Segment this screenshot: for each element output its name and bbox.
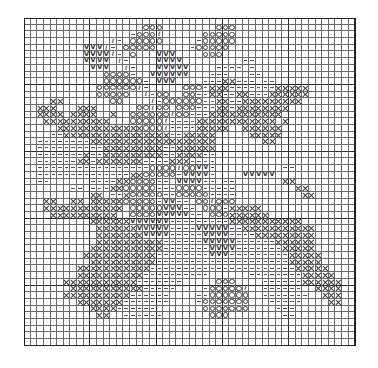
grid-cell: [190, 339, 197, 346]
dash-symbol: [163, 158, 169, 164]
v-stitch-symbol: V: [163, 232, 169, 238]
grid-cell: [256, 245, 263, 252]
circle-symbol: [183, 92, 189, 98]
cross-stitch-symbol: [90, 306, 96, 312]
dash-symbol: [143, 292, 149, 298]
grid-cell: [150, 185, 157, 192]
grid-cell: [150, 286, 157, 293]
grid-cell: [223, 199, 230, 206]
v-stitch-symbol: V: [203, 239, 209, 245]
grid-cell: [70, 306, 77, 313]
grid-cell: [210, 25, 217, 32]
grid-cell: [44, 51, 51, 58]
grid-cell: [263, 125, 270, 132]
grid-cell: [302, 92, 309, 99]
grid-cell: [316, 252, 323, 259]
grid-cell: [216, 38, 223, 45]
grid-cell: [157, 105, 164, 112]
grid-cell: [104, 172, 111, 179]
grid-cell: [243, 85, 250, 92]
grid-cell: [322, 225, 329, 232]
grid-cell: [104, 219, 111, 226]
grid-cell: [143, 319, 150, 326]
grid-cell: [309, 312, 316, 319]
grid-cell: [143, 265, 150, 272]
cross-stitch-symbol: [322, 286, 328, 292]
circle-symbol: [210, 38, 216, 44]
v-stitch-symbol: V: [84, 58, 90, 64]
circle-symbol: [157, 172, 163, 178]
dash-symbol: [170, 152, 176, 158]
cross-stitch-symbol: [97, 272, 103, 278]
grid-cell: [37, 306, 44, 313]
grid-cell: [24, 199, 31, 206]
grid-cell: ℓ: [163, 125, 170, 132]
dash-symbol: [249, 85, 255, 91]
grid-cell: [137, 279, 144, 286]
cross-stitch-symbol: [110, 252, 116, 258]
grid-cell: [249, 312, 256, 319]
cross-stitch-symbol: [256, 118, 262, 124]
dash-symbol: [170, 252, 176, 258]
cross-stitch-symbol: [130, 239, 136, 245]
grid-cell: [329, 172, 336, 179]
dash-symbol: [77, 165, 83, 171]
grid-cell: [143, 65, 150, 72]
grid-cell: [316, 299, 323, 306]
dash-symbol: [190, 212, 196, 218]
grid-cell: [117, 279, 124, 286]
dash-symbol: [163, 239, 169, 245]
circle-symbol: [123, 199, 129, 205]
grid-cell: [282, 112, 289, 119]
grid-cell: [90, 339, 97, 346]
dash-symbol: [70, 152, 76, 158]
dash-symbol: [176, 219, 182, 225]
grid-cell: [223, 98, 230, 105]
dash-symbol: [249, 58, 255, 64]
grid-cell: [316, 58, 323, 65]
circle-symbol: [236, 299, 242, 305]
grid-cell: [329, 165, 336, 172]
cross-stitch-symbol: [243, 225, 249, 231]
dash-symbol: [203, 105, 209, 111]
cross-stitch-symbol: [322, 292, 328, 298]
grid-cell: [256, 158, 263, 165]
grid-cell: [183, 38, 190, 45]
grid-cell: [289, 132, 296, 139]
grid-cell: [190, 245, 197, 252]
grid-cell: [342, 252, 349, 259]
dash-symbol: [77, 145, 83, 151]
grid-cell: [163, 292, 170, 299]
cross-stitch-symbol: [90, 252, 96, 258]
cross-stitch-symbol: [77, 272, 83, 278]
grid-cell: [97, 72, 104, 79]
cross-stitch-symbol: [210, 138, 216, 144]
circle-symbol: [196, 192, 202, 198]
dash-symbol: [143, 299, 149, 305]
dash-symbol: [263, 245, 269, 251]
cross-stitch-symbol: [269, 98, 275, 104]
grid-cell: [335, 125, 342, 132]
grid-cell: [97, 105, 104, 112]
grid-cell: [150, 312, 157, 319]
grid-cell: [57, 312, 64, 319]
grid-cell: [229, 306, 236, 313]
dash-symbol: [216, 72, 222, 78]
grid-cell: [130, 65, 137, 72]
grid-cell: [163, 319, 170, 326]
grid-cell: [170, 245, 177, 252]
grid-cell: [51, 185, 58, 192]
grid-cell: [31, 239, 38, 246]
grid-cell: [276, 205, 283, 212]
cross-stitch-symbol: [123, 158, 129, 164]
grid-cell: [342, 112, 349, 119]
grid-cell: [150, 118, 157, 125]
grid-cell: [190, 232, 197, 239]
grid-cell: [104, 179, 111, 186]
grid-cell: [104, 265, 111, 272]
grid-cell: [322, 85, 329, 92]
dash-symbol: [130, 65, 136, 71]
script-l-symbol: ℓ: [150, 105, 156, 111]
grid-cell: [150, 299, 157, 306]
grid-cell: [143, 312, 150, 319]
